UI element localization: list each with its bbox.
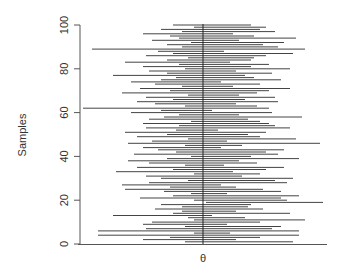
y-tick-label: 80 <box>58 63 70 75</box>
y-tick-label: 0 <box>58 241 70 247</box>
x-axis-label: θ <box>200 252 206 264</box>
axes: 020406080100 <box>58 16 327 247</box>
y-axis-label: Samples <box>16 114 28 157</box>
plot-area <box>83 24 323 244</box>
y-tick-label: 40 <box>58 150 70 162</box>
interval-chart: 020406080100 <box>0 0 347 278</box>
y-tick-label: 100 <box>58 16 70 34</box>
y-tick-label: 60 <box>58 106 70 118</box>
y-tick-label: 20 <box>58 194 70 206</box>
